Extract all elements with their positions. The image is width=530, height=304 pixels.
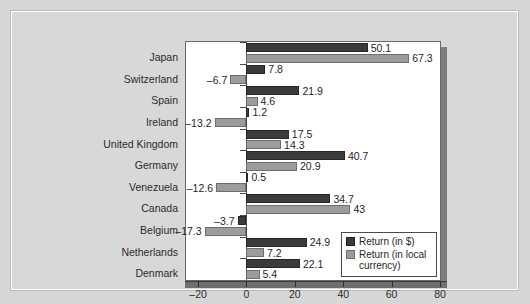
category-label-united-kingdom: United Kingdom xyxy=(103,139,178,150)
bar-value-label: 7.8 xyxy=(268,64,283,74)
bar-value-label: –6.7 xyxy=(207,75,227,85)
bar-japan-local xyxy=(246,54,409,63)
x-axis-ticks: –20020406080 xyxy=(185,281,441,303)
bar-value-label: –17.3 xyxy=(175,226,201,236)
bar-value-label: –13.2 xyxy=(185,118,211,128)
bar-value-label: 20.9 xyxy=(300,161,320,171)
bar-value-label: 50.1 xyxy=(371,43,391,53)
legend-item-local: Return (in local currency) xyxy=(346,249,432,271)
category-label-venezuela: Venezuela xyxy=(129,182,178,193)
bar-venezuela-dollar xyxy=(246,173,248,182)
x-tick-mark xyxy=(198,281,199,287)
bar-value-label: 22.1 xyxy=(303,259,323,269)
chart-page: JapanSwitzerlandSpainIrelandUnited Kingd… xyxy=(0,0,530,304)
bar-ireland-dollar xyxy=(246,108,249,117)
bar-venezuela-local xyxy=(216,183,246,192)
x-tick-mark xyxy=(295,281,296,287)
bar-ireland-local xyxy=(215,118,247,127)
legend-item-dollar: Return (in $) xyxy=(346,236,432,247)
legend-label-dollar: Return (in $) xyxy=(359,236,415,247)
bar-united-kingdom-local xyxy=(246,140,281,149)
category-label-ireland: Ireland xyxy=(146,117,178,128)
bar-japan-dollar xyxy=(246,43,367,52)
category-label-switzerland: Switzerland xyxy=(124,74,178,85)
x-tick-label: 60 xyxy=(386,288,398,300)
bar-spain-dollar xyxy=(246,86,299,95)
x-tick-label: –20 xyxy=(189,288,207,300)
bar-belgium-dollar xyxy=(238,216,247,225)
x-tick-label: 80 xyxy=(434,288,446,300)
x-tick-mark xyxy=(440,281,441,287)
bar-switzerland-dollar xyxy=(246,65,265,74)
bar-value-label: 17.5 xyxy=(292,129,312,139)
legend-label-local: Return (in local currency) xyxy=(359,249,432,271)
bar-value-label: 7.2 xyxy=(267,248,282,258)
x-tick-mark xyxy=(343,281,344,287)
category-label-canada: Canada xyxy=(141,203,178,214)
bar-value-label: 43 xyxy=(353,204,365,214)
chart-legend: Return (in $) Return (in local currency) xyxy=(341,232,437,277)
bar-value-label: 5.4 xyxy=(263,269,278,279)
x-tick-mark xyxy=(246,281,247,287)
bar-value-label: 1.2 xyxy=(252,107,267,117)
bar-value-label: –3.7 xyxy=(214,216,234,226)
category-label-germany: Germany xyxy=(135,160,178,171)
bar-value-label: 0.5 xyxy=(251,172,266,182)
bar-value-label: –12.6 xyxy=(187,183,213,193)
figure-frame: JapanSwitzerlandSpainIrelandUnited Kingd… xyxy=(11,11,518,290)
bar-value-label: 34.7 xyxy=(333,194,353,204)
bar-spain-local xyxy=(246,97,257,106)
bar-belgium-local xyxy=(205,227,247,236)
category-label-japan: Japan xyxy=(149,52,178,63)
bar-denmark-local xyxy=(246,270,259,279)
bar-value-label: 14.3 xyxy=(284,140,304,150)
x-tick-label: 20 xyxy=(289,288,301,300)
bar-denmark-dollar xyxy=(246,259,299,268)
x-tick-label: 0 xyxy=(244,288,250,300)
bar-united-kingdom-dollar xyxy=(246,130,288,139)
bar-germany-local xyxy=(246,162,297,171)
bar-value-label: 67.3 xyxy=(412,53,432,63)
bar-canada-dollar xyxy=(246,194,330,203)
bar-germany-dollar xyxy=(246,151,344,160)
x-tick-label: 40 xyxy=(337,288,349,300)
bar-switzerland-local xyxy=(230,75,246,84)
bar-value-label: 40.7 xyxy=(348,151,368,161)
legend-swatch-local-icon xyxy=(346,250,355,259)
bar-canada-local xyxy=(246,205,350,214)
category-label-netherlands: Netherlands xyxy=(121,247,178,258)
bar-netherlands-local xyxy=(246,248,263,257)
category-label-spain: Spain xyxy=(151,95,178,106)
x-tick-mark xyxy=(392,281,393,287)
category-label-denmark: Denmark xyxy=(135,268,178,279)
bar-netherlands-dollar xyxy=(246,238,306,247)
bar-value-label: 4.6 xyxy=(261,96,276,106)
legend-swatch-dollar-icon xyxy=(346,237,355,246)
bar-value-label: 24.9 xyxy=(310,237,330,247)
bar-value-label: 21.9 xyxy=(302,86,322,96)
category-axis-labels: JapanSwitzerlandSpainIrelandUnited Kingd… xyxy=(30,41,182,281)
category-label-belgium: Belgium xyxy=(140,225,178,236)
